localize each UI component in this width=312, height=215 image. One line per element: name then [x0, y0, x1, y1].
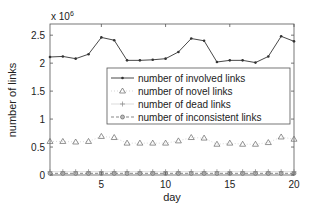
x-tick-label: 15	[224, 179, 236, 190]
dot-marker	[177, 51, 180, 54]
dot-marker	[113, 39, 116, 42]
legend-label: number of novel links	[138, 86, 233, 97]
y-tick-label: 1	[39, 114, 45, 125]
dot-marker	[74, 57, 77, 60]
dot-marker	[203, 39, 206, 42]
dot-marker	[228, 59, 231, 62]
dot-marker	[126, 59, 129, 62]
dot-marker	[62, 55, 65, 58]
x-tick-label: 20	[288, 179, 300, 190]
line-chart: 510152000.511.522.5 x 106 day number of …	[0, 0, 312, 215]
legend-label: number of involved links	[138, 73, 245, 84]
dot-marker	[241, 59, 244, 62]
circle-marker	[121, 115, 125, 119]
y-tick-label: 0	[39, 170, 45, 181]
dot-marker	[190, 37, 193, 40]
y-multiplier-label: x 106	[51, 10, 74, 22]
dot-marker	[280, 35, 283, 38]
legend-label: number of dead links	[138, 99, 231, 110]
dot-marker	[254, 61, 257, 64]
dot-marker	[100, 36, 103, 39]
dot-marker	[267, 55, 270, 58]
x-tick-label: 5	[99, 179, 105, 190]
x-tick-label: 10	[160, 179, 172, 190]
y-tick-label: 0.5	[31, 142, 45, 153]
dot-marker	[293, 40, 296, 43]
y-tick-label: 1.5	[31, 86, 45, 97]
legend-label: number of inconsistent links	[138, 112, 261, 123]
dot-marker	[87, 53, 90, 56]
x-axis-label: day	[163, 191, 181, 203]
y-tick-label: 2	[39, 58, 45, 69]
dot-marker	[49, 56, 52, 59]
legend: number of involved linksnumber of novel …	[107, 68, 290, 124]
y-tick-label: 2.5	[31, 30, 45, 41]
dot-marker	[121, 77, 124, 80]
dot-marker	[164, 57, 167, 60]
dot-marker	[151, 58, 154, 61]
dot-marker	[139, 59, 142, 62]
y-axis-label: number of links	[6, 62, 18, 137]
dot-marker	[216, 61, 219, 64]
